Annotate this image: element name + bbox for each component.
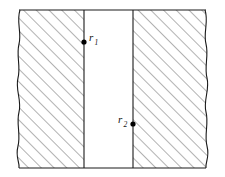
point-r2-label: r [118,113,123,125]
point-r1-subscript: 1 [95,38,99,47]
point-r2-dot [130,121,135,126]
figure-container: r 1 r 2 [0,0,225,177]
point-r1-dot [81,39,86,44]
point-r2-subscript: 2 [124,120,128,129]
point-r1-label: r [89,31,94,43]
cross-section-diagram: r 1 r 2 [0,0,225,177]
